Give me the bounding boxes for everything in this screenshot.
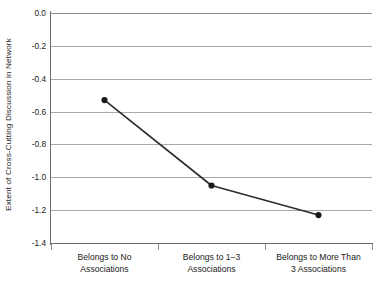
y-axis-tick-label: -0.6	[32, 107, 46, 117]
series-polyline	[105, 100, 319, 215]
data-point-marker	[101, 97, 107, 103]
x-axis-line	[51, 243, 373, 244]
y-axis-tick-label: -0.8	[32, 139, 46, 149]
data-point-marker	[315, 212, 321, 218]
x-axis-tick	[158, 244, 159, 250]
y-axis-tick-labels: 0.0-0.2-0.4-0.6-0.8-1.0-1.2-1.4	[16, 0, 49, 291]
y-axis-tick-label: 0.0	[34, 8, 46, 18]
y-axis-tick-label: -1.4	[32, 238, 46, 248]
x-axis-tick	[51, 244, 52, 250]
clipped-caption	[0, 286, 383, 291]
y-axis-tick-label: -1.2	[32, 205, 46, 215]
x-axis-category-label: Belongs to 1–3Associations	[183, 252, 240, 276]
y-axis-tick-label: -0.2	[32, 41, 46, 51]
y-axis-title: Extent of Cross-Cutting Discussion in Ne…	[0, 0, 16, 248]
y-axis-tick-label: -1.0	[32, 172, 46, 182]
y-axis-title-text: Extent of Cross-Cutting Discussion in Ne…	[4, 38, 13, 211]
x-axis-category-label: Belongs to More Than3 Associations	[276, 252, 360, 276]
x-axis-tick	[372, 244, 373, 250]
chart-figure: Extent of Cross-Cutting Discussion in Ne…	[0, 0, 383, 291]
data-series-line	[51, 13, 372, 243]
x-axis-category-label: Belongs to NoAssociations	[78, 252, 132, 276]
x-axis-tick	[265, 244, 266, 250]
data-point-marker	[208, 182, 214, 188]
x-axis-category-labels: Belongs to NoAssociationsBelongs to 1–3A…	[51, 252, 372, 286]
plot-area	[51, 13, 372, 243]
y-axis-tick-label: -0.4	[32, 74, 46, 84]
